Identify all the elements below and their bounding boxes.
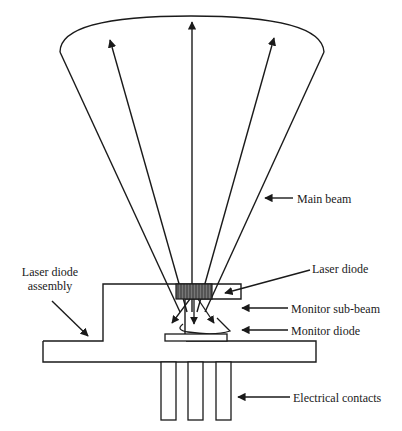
label-laser-diode: Laser diode [312,262,368,276]
monitor-diode [165,334,227,341]
main-beam-arrows [110,22,274,312]
label-assembly-line2: assembly [10,279,90,293]
label-main-beam: Main beam [297,192,351,206]
monitor-sub-beam [172,299,230,334]
label-monitor-diode: Monitor diode [291,324,360,338]
electrical-contacts [161,362,231,420]
label-assembly: Laser diode assembly [10,265,90,293]
laser-diode-chip [176,284,212,299]
label-assembly-line1: Laser diode [10,265,90,279]
label-electrical-contacts: Electrical contacts [293,391,381,405]
label-monitor-sub-beam: Monitor sub-beam [291,302,380,316]
laser-diode-diagram [0,0,402,431]
